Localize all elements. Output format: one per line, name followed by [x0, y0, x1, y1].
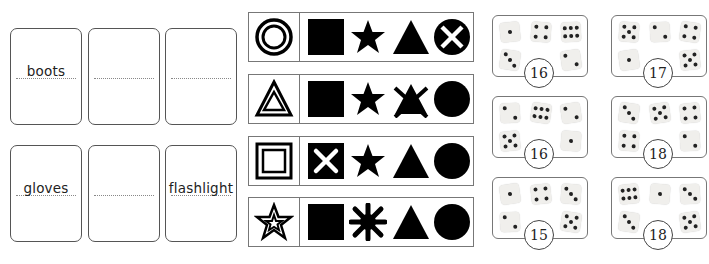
pip — [503, 215, 507, 219]
pip — [663, 35, 667, 39]
pip — [662, 105, 667, 110]
pip — [574, 62, 579, 67]
die-face-5 — [679, 49, 701, 71]
dice-card-6[interactable]: 18 — [611, 177, 707, 239]
pip — [622, 144, 626, 148]
word-card-6[interactable]: flashlight — [165, 145, 237, 242]
dice-total-circle: 15 — [524, 220, 554, 250]
pip — [682, 34, 687, 39]
die-face-3 — [560, 183, 581, 204]
pip — [683, 225, 688, 230]
key-cell — [249, 137, 300, 185]
die-face-4 — [679, 102, 701, 124]
double-square-icon — [254, 141, 294, 181]
die-face-3 — [618, 211, 641, 234]
circle-icon — [433, 203, 471, 241]
square-icon — [307, 203, 345, 241]
word-card-3[interactable] — [165, 28, 237, 125]
pip — [632, 187, 636, 191]
word-card-5[interactable] — [88, 145, 160, 242]
pip — [503, 106, 507, 110]
word-card-1[interactable]: boots — [10, 28, 82, 125]
pip — [574, 115, 579, 120]
pip — [627, 196, 631, 200]
pip — [544, 196, 548, 200]
pip — [512, 63, 517, 68]
pip — [683, 134, 687, 138]
pip — [688, 220, 693, 225]
crossed-triangle-icon — [391, 80, 431, 118]
word-card-2[interactable] — [88, 28, 160, 125]
die-face-2 — [499, 102, 520, 123]
die-face-6 — [530, 102, 553, 125]
pip — [631, 116, 636, 121]
pip — [682, 106, 686, 110]
pip — [682, 53, 686, 57]
pip — [513, 116, 517, 120]
pip — [534, 25, 538, 29]
pip — [631, 225, 636, 230]
shape-strip-3[interactable] — [248, 136, 474, 186]
pip — [503, 52, 508, 57]
die-face-2 — [499, 211, 520, 232]
pip — [544, 116, 549, 121]
pip — [683, 63, 687, 67]
key-cell — [249, 13, 300, 61]
star-icon — [349, 18, 387, 56]
die-face-1 — [649, 183, 670, 204]
pip — [569, 139, 573, 143]
triangle-icon — [391, 18, 431, 56]
pip — [575, 34, 579, 38]
dice-card-1[interactable]: 16 — [492, 15, 588, 77]
square-with-x-icon — [307, 142, 345, 180]
dice-card-5[interactable]: 15 — [492, 177, 588, 239]
pip — [622, 105, 627, 110]
pip — [534, 35, 538, 39]
pip — [545, 108, 550, 113]
pip — [627, 30, 631, 34]
pip — [626, 188, 630, 192]
pip — [508, 30, 512, 34]
dice-card-4[interactable]: 18 — [611, 96, 707, 158]
pip — [632, 134, 636, 138]
pip — [569, 34, 573, 38]
pip — [574, 197, 578, 201]
dice-card-3[interactable]: 16 — [492, 96, 588, 158]
word-card-4[interactable]: gloves — [10, 145, 82, 242]
pip — [632, 144, 636, 148]
pip — [622, 25, 626, 29]
dice-card-2[interactable]: 17 — [611, 15, 707, 77]
dice-total-circle: 16 — [524, 139, 554, 169]
pip — [563, 34, 567, 38]
shape-strip-2[interactable] — [248, 74, 474, 124]
die-face-1 — [499, 183, 522, 206]
pip — [512, 133, 516, 137]
double-circle-icon — [254, 17, 294, 57]
pip — [632, 25, 636, 29]
pip — [563, 26, 567, 30]
die-face-5 — [499, 130, 521, 152]
pip — [683, 116, 687, 120]
card-word: gloves — [11, 180, 81, 196]
pip — [533, 106, 538, 111]
pip — [693, 62, 697, 66]
pip — [574, 215, 579, 220]
die-face-3 — [679, 183, 700, 204]
pip — [693, 144, 697, 148]
pip — [683, 187, 687, 191]
shape-strip-1[interactable] — [248, 12, 474, 62]
asterisk-burst-icon — [349, 203, 387, 241]
shape-strip-4[interactable] — [248, 197, 474, 247]
pip — [502, 134, 506, 138]
square-icon — [307, 80, 345, 118]
pip — [688, 58, 692, 62]
die-face-3 — [499, 49, 522, 72]
pip — [533, 187, 537, 191]
star-icon — [349, 142, 387, 180]
pip — [544, 25, 548, 29]
pip — [622, 134, 626, 138]
circle-with-x-icon — [433, 18, 471, 56]
pip — [622, 214, 627, 219]
die-face-2 — [560, 102, 583, 125]
pip — [508, 58, 513, 63]
